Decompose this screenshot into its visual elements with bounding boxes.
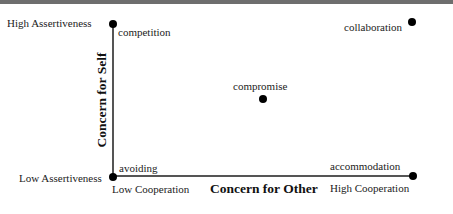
top-border [0,0,453,4]
x-axis-low-label: Low Cooperation [112,183,189,195]
y-axis-title: Concern for Self [94,53,110,148]
y-axis-high-label: High Assertiveness [7,17,92,29]
label-competition: competition [118,26,171,38]
point-competition [109,20,117,28]
label-collaboration: collaboration [344,21,402,33]
x-axis-line [112,175,414,177]
label-accommodation: accommodation [330,160,400,172]
point-avoiding [109,173,117,181]
label-avoiding: avoiding [119,162,158,174]
x-axis-high-label: High Cooperation [330,182,409,194]
y-axis-line [112,22,114,175]
point-compromise [259,95,267,103]
label-compromise: compromise [233,80,287,92]
x-axis-title: Concern for Other [210,181,318,197]
point-accommodation [409,172,417,180]
point-collaboration [408,18,416,26]
y-axis-low-label: Low Assertiveness [19,172,102,184]
